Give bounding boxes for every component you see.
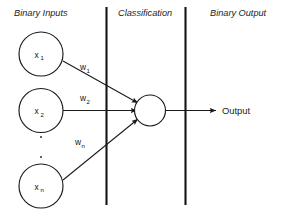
input-node-xn-subscript: n <box>41 186 44 193</box>
ellipsis-dot-2 <box>40 156 42 158</box>
perceptron-canvas: Binary Inputs Classification Binary Outp… <box>0 0 288 216</box>
perceptron-diagram: Binary Inputs Classification Binary Outp… <box>0 0 288 216</box>
output-label: Output <box>222 105 251 116</box>
classifier-node[interactable] <box>135 95 166 126</box>
header-classification: Classification <box>118 8 172 18</box>
connection-x1-to-classifier <box>63 61 138 103</box>
connection-xn-to-classifier <box>63 119 138 180</box>
weight-label-w2-subscript: 2 <box>87 98 91 105</box>
ellipsis-dot-1 <box>40 136 42 138</box>
weight-label-wn-subscript: n <box>82 142 85 149</box>
header-binary-output: Binary Output <box>210 8 267 18</box>
weight-label-w1-subscript: 1 <box>87 67 91 74</box>
header-binary-inputs: Binary Inputs <box>14 8 68 18</box>
